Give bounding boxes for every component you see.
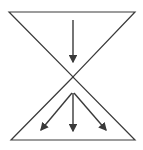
top-inverted-triangle bbox=[9, 12, 135, 77]
hourglass-diagram bbox=[0, 0, 143, 150]
arrows-group bbox=[41, 20, 106, 131]
diverge-arrow-right-icon bbox=[74, 93, 106, 130]
diagram-canvas bbox=[0, 0, 143, 150]
diverge-arrow-left-icon bbox=[41, 93, 72, 130]
